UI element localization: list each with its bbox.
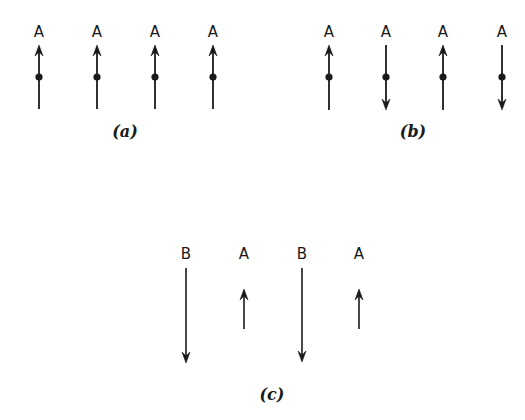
- atom-dot-icon: [35, 73, 42, 80]
- atom-dot-icon: [325, 73, 332, 80]
- site-label: A: [324, 23, 335, 41]
- site-label: A: [150, 23, 161, 41]
- panel-c: BABA(c): [181, 245, 365, 404]
- site-label: A: [497, 23, 508, 41]
- site-label: A: [354, 245, 365, 263]
- spin-a-up: A: [324, 23, 335, 110]
- site-label: A: [438, 23, 449, 41]
- site-label: A: [92, 23, 103, 41]
- site-label: A: [208, 23, 219, 41]
- spin-a-up: A: [208, 23, 219, 109]
- figure-svg: AAAA(a)AAAA(b)BABA(c): [0, 0, 525, 420]
- spin-a-up: A: [438, 23, 449, 110]
- spin-b-down: B: [181, 245, 191, 363]
- atom-dot-icon: [209, 73, 216, 80]
- spin-a-down: A: [497, 23, 508, 110]
- atom-dot-icon: [93, 73, 100, 80]
- atom-dot-icon: [439, 73, 446, 80]
- spin-a-up: A: [34, 23, 45, 109]
- spin-a-up: A: [239, 245, 250, 329]
- atom-dot-icon: [498, 73, 505, 80]
- atom-dot-icon: [151, 73, 158, 80]
- panel-caption: (a): [112, 122, 138, 141]
- spin-a-up: A: [150, 23, 161, 109]
- site-label: B: [181, 245, 191, 263]
- spin-a-up: A: [92, 23, 103, 109]
- spin-b-down: B: [297, 245, 307, 362]
- site-label: A: [381, 23, 392, 41]
- spin-arrangement-figure: AAAA(a)AAAA(b)BABA(c): [0, 0, 525, 420]
- atom-dot-icon: [382, 73, 389, 80]
- site-label: B: [297, 245, 307, 263]
- spin-a-up: A: [354, 245, 365, 329]
- spin-a-down: A: [381, 23, 392, 110]
- panel-b: AAAA(b): [324, 23, 508, 141]
- panel-caption: (b): [400, 122, 426, 141]
- panel-a: AAAA(a): [34, 23, 219, 141]
- site-label: A: [239, 245, 250, 263]
- site-label: A: [34, 23, 45, 41]
- panel-caption: (c): [260, 385, 285, 404]
